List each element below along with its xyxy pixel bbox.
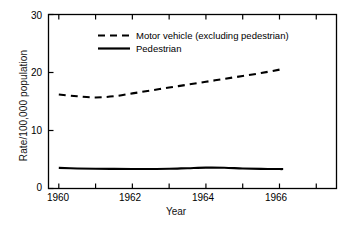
y-tick-label-10: 10 xyxy=(12,125,42,136)
legend-label-pedestrian: Pedestrian xyxy=(136,43,181,54)
y-tick-label-20: 20 xyxy=(12,67,42,78)
x-axis-title: Year xyxy=(0,206,352,217)
legend-label-motor-vehicle: Motor vehicle (excluding pedestrian) xyxy=(136,30,289,41)
x-tick-label-1962: 1962 xyxy=(110,192,150,203)
series-line-pedestrian xyxy=(59,168,283,170)
x-tick-label-1966: 1966 xyxy=(256,192,296,203)
y-tick-label-30: 30 xyxy=(12,10,42,21)
y-axis-title: Rate/100,000 population xyxy=(18,36,29,176)
chart-figure: Rate/100,000 population Year 30 20 10 0 … xyxy=(0,0,352,228)
x-tick-label-1960: 1960 xyxy=(38,192,78,203)
x-tick-label-1964: 1964 xyxy=(183,192,223,203)
